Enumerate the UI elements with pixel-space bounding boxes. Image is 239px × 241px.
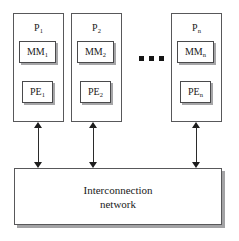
processing-element-box-pe2: PE2 xyxy=(80,81,111,103)
processing-element-text-pe2: PE xyxy=(88,86,100,97)
arrow-shaft-p1 xyxy=(38,127,39,163)
architecture-diagram: P1 MM1 PE1 P2 MM2 PE2 Pn MMn xyxy=(0,0,239,241)
ellipsis-dot-2 xyxy=(149,56,154,61)
network-label-line1: Interconnection xyxy=(83,183,152,197)
processor-label-p2: P2 xyxy=(72,23,121,33)
memory-module-label-mm2: MM2 xyxy=(85,47,106,57)
processor-label-sub-p2: 2 xyxy=(98,27,101,34)
ellipsis-dot-3 xyxy=(159,56,164,61)
processor-label-p1: P1 xyxy=(14,23,63,33)
memory-module-sub-mmn: n xyxy=(203,51,206,58)
processing-element-label-pe1: PE1 xyxy=(30,87,45,97)
arrow-shaft-pn xyxy=(196,127,197,163)
memory-module-text-mmn: MM xyxy=(185,46,203,57)
processing-element-sub-pen: n xyxy=(200,91,203,98)
processing-element-text-pe1: PE xyxy=(30,86,42,97)
processor-label-sub-p1: 1 xyxy=(40,27,43,34)
memory-module-label-mmn: MMn xyxy=(185,47,206,57)
connection-arrow-p1 xyxy=(34,122,43,168)
connection-arrow-pn xyxy=(192,122,201,168)
memory-module-box-mmn: MMn xyxy=(177,41,214,63)
processor-box-p1: P1 MM1 PE1 xyxy=(13,13,64,122)
processor-label-text-p2: P xyxy=(92,22,98,33)
processing-element-box-pen: PEn xyxy=(180,81,211,103)
ellipsis-dot-1 xyxy=(139,56,144,61)
connection-arrow-p2 xyxy=(89,122,98,168)
processing-element-box-pe1: PE1 xyxy=(22,81,53,103)
memory-module-box-mm1: MM1 xyxy=(19,41,56,63)
memory-module-sub-mm2: 2 xyxy=(103,51,106,58)
processing-element-text-pen: PE xyxy=(188,86,200,97)
processor-box-p2: P2 MM2 PE2 xyxy=(71,13,122,122)
memory-module-label-mm1: MM1 xyxy=(27,47,48,57)
processing-element-label-pe2: PE2 xyxy=(88,87,103,97)
processing-element-label-pen: PEn xyxy=(188,87,203,97)
interconnection-network-label: Interconnection network xyxy=(83,183,152,211)
interconnection-network-box: Interconnection network xyxy=(14,168,222,225)
ellipsis-indicator xyxy=(139,56,164,61)
processor-label-text-p1: P xyxy=(34,22,40,33)
memory-module-sub-mm1: 1 xyxy=(45,51,48,58)
memory-module-text-mm2: MM xyxy=(85,46,103,57)
processing-element-sub-pe1: 1 xyxy=(42,91,45,98)
processor-label-pn: Pn xyxy=(172,23,221,33)
memory-module-box-mm2: MM2 xyxy=(77,41,114,63)
network-label-line2: network xyxy=(83,197,152,211)
processor-label-sub-pn: n xyxy=(198,27,201,34)
processing-element-sub-pe2: 2 xyxy=(100,91,103,98)
processor-box-pn: Pn MMn PEn xyxy=(171,13,222,122)
arrow-shaft-p2 xyxy=(93,127,94,163)
processor-label-text-pn: P xyxy=(192,22,198,33)
memory-module-text-mm1: MM xyxy=(27,46,45,57)
